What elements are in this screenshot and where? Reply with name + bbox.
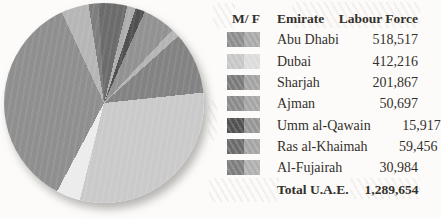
mf-color-swatch [227,160,260,175]
emirate-name: Al-Fujairah [277,157,348,178]
mf-color-swatch [227,32,260,47]
legend-header-row: M/ F Emirate Labour Force [227,8,418,29]
labour-force-value: 59,456 [368,136,438,157]
emirate-name: Ajman [277,93,348,114]
legend-row: Ajman 50,697 [227,93,418,114]
header-mf: M/ F [227,8,277,29]
female-color-swatch [244,32,261,47]
legend-row: Dubai 412,216 [227,51,418,72]
male-color-swatch [227,139,244,154]
mf-color-swatch [227,139,260,154]
labour-force-value: 412,216 [348,51,418,72]
emirate-name: Sharjah [277,72,348,93]
legend-total-row: Total U.A.E. 1,289,654 [227,178,418,199]
labour-force-value: 201,867 [348,72,418,93]
mf-color-swatch [227,54,260,69]
male-color-swatch [227,32,244,47]
emirate-name: Ras al-Khaimah [277,136,368,157]
female-color-swatch [244,75,261,90]
pie-chart [4,3,204,203]
swatch-cell [227,118,277,133]
paper-watermark [208,100,217,140]
legend-row: Ras al-Khaimah 59,456 [227,136,418,157]
male-color-swatch [227,75,244,90]
labour-force-value: 30,984 [348,157,418,178]
female-color-swatch [244,139,261,154]
legend-row: Abu Dhabi 518,517 [227,29,418,50]
mf-color-swatch [227,96,260,111]
labour-force-value: 518,517 [348,29,418,50]
female-color-swatch [244,96,261,111]
legend-row: Umm al-Qawain 15,917 [227,114,418,135]
swatch-cell [227,139,277,154]
male-color-swatch [227,54,244,69]
swatch-cell [227,75,277,90]
legend-table: M/ F Emirate Labour Force Abu Dhabi 518,… [227,8,418,200]
male-color-swatch [227,160,244,175]
mf-color-swatch [227,118,260,133]
swatch-cell [227,54,277,69]
legend-rows: Abu Dhabi 518,517 Dubai 412,216 Sharjah … [227,29,418,178]
total-value: 1,289,654 [349,179,419,200]
emirate-name: Umm al-Qawain [277,115,371,136]
swatch-cell [227,32,277,47]
labour-force-value: 15,917 [371,115,441,136]
male-color-swatch [227,118,244,133]
swatch-cell [227,160,277,175]
female-color-swatch [244,160,261,175]
emirate-name: Dubai [277,51,348,72]
header-labour-force: Labour Force [339,8,418,29]
legend-row: Al-Fujairah 30,984 [227,157,418,178]
female-color-swatch [244,118,261,133]
mf-color-swatch [227,75,260,90]
legend-row: Sharjah 201,867 [227,72,418,93]
swatch-cell [227,96,277,111]
female-color-swatch [244,54,261,69]
emirate-name: Abu Dhabi [277,29,348,50]
header-emirate: Emirate [277,8,339,29]
male-color-swatch [227,96,244,111]
total-label: Total U.A.E. [277,179,349,200]
labour-force-value: 50,697 [348,93,418,114]
